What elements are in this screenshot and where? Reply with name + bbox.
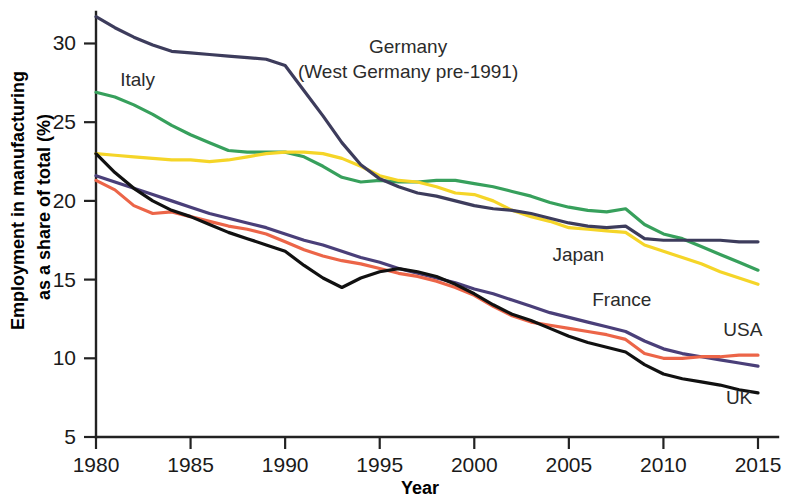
y-tick-labels: 51015202530 — [53, 31, 76, 448]
chart-figure: 51015202530 1980198519901995200020052010… — [0, 0, 802, 500]
y-tick-label-10: 10 — [53, 346, 76, 369]
annotation-italy: Italy — [120, 69, 155, 90]
x-tick-label-1990: 1990 — [262, 453, 309, 476]
x-tick-marks — [96, 437, 758, 449]
line-chart-canvas: 51015202530 1980198519901995200020052010… — [0, 0, 802, 500]
y-axis-title: Employment in manufacturing as a share o… — [8, 71, 54, 330]
series-line-france — [96, 176, 758, 366]
y-axis-title-line2: as a share of total (%) — [34, 114, 54, 300]
x-axis-title: Year — [401, 478, 439, 498]
y-tick-label-20: 20 — [53, 189, 76, 212]
x-tick-label-2010: 2010 — [640, 453, 687, 476]
y-tick-label-30: 30 — [53, 31, 76, 54]
y-tick-label-15: 15 — [53, 268, 76, 291]
x-tick-label-1995: 1995 — [356, 453, 403, 476]
x-axis-group: 19801985199019952000200520102015 — [73, 437, 782, 476]
y-tick-label-25: 25 — [53, 110, 76, 133]
annotation-japan: Japan — [552, 244, 604, 265]
x-tick-labels: 19801985199019952000200520102015 — [73, 453, 782, 476]
annotation-west-germany-pre-1991: (West Germany pre-1991) — [298, 61, 518, 82]
annotation-usa: USA — [723, 319, 762, 340]
series-line-italy — [96, 92, 758, 270]
y-tick-label-5: 5 — [64, 425, 76, 448]
y-axis-title-line1: Employment in manufacturing — [8, 71, 28, 330]
x-tick-label-2015: 2015 — [735, 453, 782, 476]
y-tick-marks — [84, 43, 96, 437]
annotation-uk: UK — [726, 387, 753, 408]
annotation-germany: Germany — [369, 36, 448, 57]
annotation-france: France — [592, 289, 651, 310]
x-tick-label-1980: 1980 — [73, 453, 120, 476]
x-tick-label-2005: 2005 — [545, 453, 592, 476]
x-tick-label-2000: 2000 — [451, 453, 498, 476]
x-tick-label-1985: 1985 — [167, 453, 214, 476]
y-axis-group: 51015202530 — [53, 12, 96, 448]
